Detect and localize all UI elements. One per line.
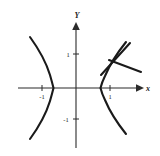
- plot-canvas: x Y -1 1 1 -1: [0, 0, 160, 156]
- x-tick-label-pos1: 1: [108, 93, 111, 100]
- y-tick-group: 1 -1: [63, 51, 79, 123]
- y-axis-group: Y: [72, 11, 80, 148]
- x-tick-label-neg1: -1: [39, 93, 44, 100]
- x-axis-arrow-icon: [136, 84, 144, 92]
- tangent-line: [101, 43, 130, 75]
- secant-line: [109, 60, 141, 72]
- y-tick-label-pos1: 1: [66, 51, 69, 58]
- hyperbola-figure: x Y -1 1 1 -1: [0, 0, 160, 156]
- y-tick-label-neg1: -1: [63, 116, 68, 123]
- y-axis-label: Y: [75, 11, 81, 20]
- y-axis-arrow-icon: [72, 22, 80, 30]
- x-axis-label: x: [145, 84, 150, 93]
- x-axis-group: x: [18, 84, 150, 93]
